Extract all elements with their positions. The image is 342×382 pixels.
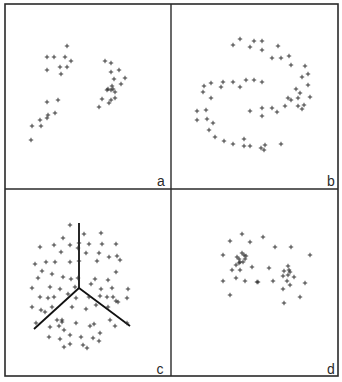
panel-label-c: c [157, 361, 164, 377]
panel-label-a: a [157, 173, 165, 189]
panel-label-b: b [327, 173, 335, 189]
figure-canvas: a b c d [0, 0, 342, 382]
panel-label-d: d [327, 361, 335, 377]
